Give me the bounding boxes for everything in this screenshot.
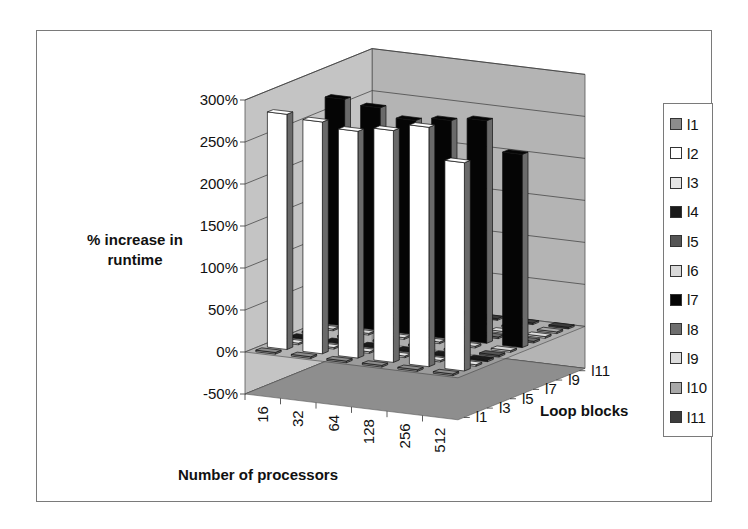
y-tick-label: 200% (200, 175, 238, 192)
legend-label: l10 (687, 379, 707, 396)
x-tick-label: 32 (289, 410, 306, 427)
x-tick-label: 64 (325, 415, 342, 432)
legend-swatch (670, 147, 682, 159)
legend-swatch (670, 265, 682, 277)
y-tick-label: 100% (200, 259, 238, 276)
legend-swatch (670, 323, 682, 335)
legend-label: l4 (687, 203, 699, 220)
legend-label: l2 (687, 145, 699, 162)
bar-side (487, 118, 493, 343)
bar-l7-512 (503, 152, 522, 348)
z-tick-label: l11 (591, 362, 610, 379)
legend-item-l9: l9 (670, 348, 699, 368)
bar-side (322, 120, 328, 354)
y-axis-title: % increase in runtime (70, 230, 200, 270)
legend-swatch (670, 118, 682, 130)
bar-side (287, 112, 293, 350)
z-axis-title: Loop blocks (540, 402, 628, 419)
legend-label: l11 (687, 409, 706, 426)
x-tick-label: 512 (431, 428, 448, 453)
z-tick-label: l3 (499, 399, 511, 416)
legend-item-l11: l11 (670, 407, 706, 427)
bar-l2-16 (267, 112, 287, 350)
legend-item-l2: l2 (670, 143, 699, 163)
x-axis-title: Number of processors (178, 466, 338, 483)
bar-side (358, 129, 364, 358)
bar-l2-256 (409, 125, 429, 367)
bar-side (393, 128, 399, 362)
y-tick-label: 0% (216, 343, 238, 360)
legend-label: l6 (687, 262, 699, 279)
y-axis-title-line1: % increase in (70, 230, 200, 250)
legend-item-l4: l4 (670, 202, 699, 222)
legend-swatch (670, 235, 682, 247)
y-tick-label: 250% (200, 133, 238, 150)
legend-item-l3: l3 (670, 173, 699, 193)
legend-item-l6: l6 (670, 261, 699, 281)
legend-swatch (670, 382, 682, 394)
z-tick-label: l1 (476, 408, 488, 425)
bar-l2-64 (338, 129, 358, 358)
bar-l2-32 (303, 120, 323, 354)
z-tick-label: l7 (545, 380, 557, 397)
legend-label: l1 (687, 116, 699, 133)
y-tick-label: 50% (208, 301, 238, 318)
legend-item-l8: l8 (670, 319, 699, 339)
legend-item-l10: l10 (670, 378, 707, 398)
legend: l1l2l3l4l5l6l7l8l9l10l11 (663, 103, 713, 437)
legend-item-l1: l1 (670, 114, 699, 134)
legend-swatch (670, 294, 682, 306)
legend-swatch (670, 177, 682, 189)
x-tick-label: 256 (396, 423, 413, 448)
legend-swatch (670, 411, 682, 423)
bar-l2-512 (445, 160, 465, 371)
x-tick-label: 128 (360, 419, 377, 444)
legend-label: l8 (687, 321, 699, 338)
bar-side (429, 125, 435, 367)
y-tick-label: 300% (200, 91, 238, 108)
legend-item-l5: l5 (670, 231, 699, 251)
y-axis-title-line2: runtime (70, 250, 200, 270)
bar-side (464, 160, 470, 371)
z-tick-label: l5 (522, 390, 534, 407)
legend-label: l3 (687, 174, 699, 191)
y-tick-label: -50% (203, 385, 238, 402)
legend-label: l7 (687, 291, 699, 308)
y-tick-label: 150% (200, 217, 238, 234)
bar-l2-128 (374, 128, 394, 362)
legend-label: l5 (687, 233, 699, 250)
bar-side (522, 152, 528, 348)
x-tick-label: 16 (254, 406, 271, 423)
z-tick-label: l9 (568, 371, 580, 388)
legend-item-l7: l7 (670, 290, 699, 310)
legend-label: l9 (687, 350, 699, 367)
legend-swatch (670, 352, 682, 364)
legend-swatch (670, 206, 682, 218)
